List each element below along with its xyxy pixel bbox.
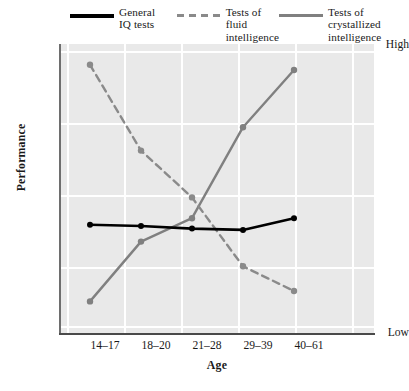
legend-entry-general-iq: General IQ tests [70, 6, 177, 31]
legend-label-fluid-intelligence: Tests of fluid intelligence [226, 6, 279, 43]
legend-swatch-gray-line-icon [279, 9, 323, 23]
y-tick-label-high: High [357, 38, 409, 51]
x-tick-labels: 14–1718–2021–2829–3940–61 [60, 339, 374, 357]
y-axis-line [59, 44, 61, 334]
legend-label-general-iq: General IQ tests [119, 6, 155, 31]
legend-swatch-solid-line-icon [70, 9, 114, 23]
data-point-marker [291, 215, 297, 221]
series-line-1 [90, 65, 294, 291]
data-point-marker [138, 147, 144, 153]
series-line-2 [90, 70, 294, 301]
data-point-marker [240, 124, 246, 130]
data-point-marker [87, 298, 93, 304]
y-axis-title: Performance [14, 98, 29, 218]
chart-figure: General IQ tests Tests of fluid intellig… [0, 0, 409, 391]
data-point-marker [87, 62, 93, 68]
data-point-marker [138, 238, 144, 244]
x-tick-label-40-61: 40–61 [279, 339, 339, 352]
data-point-marker [240, 227, 246, 233]
gridlines [60, 44, 374, 333]
x-axis-title: Age [60, 358, 374, 373]
data-point-marker [291, 288, 297, 294]
legend-swatch-dashed-line-icon [177, 9, 221, 23]
data-point-marker [240, 263, 246, 269]
chart-legend: General IQ tests Tests of fluid intellig… [70, 6, 406, 40]
y-tick-label-low: Low [357, 326, 409, 339]
x-axis-line [59, 333, 375, 335]
data-point-marker [291, 67, 297, 73]
data-point-marker [189, 215, 195, 221]
data-point-marker [87, 222, 93, 228]
legend-entry-fluid-intelligence: Tests of fluid intelligence [177, 6, 279, 43]
plot-svg [60, 44, 374, 333]
plot-wrap [60, 44, 374, 333]
data-point-marker [138, 223, 144, 229]
data-point-marker [189, 194, 195, 200]
data-point-marker [189, 226, 195, 232]
